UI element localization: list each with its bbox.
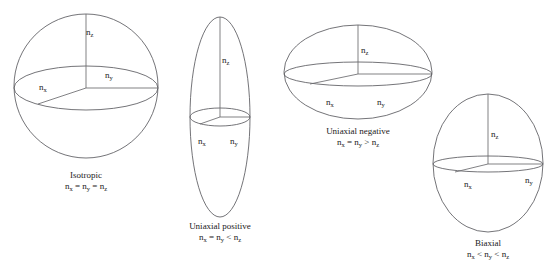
uniaxial-negative-nx-axis — [310, 74, 358, 84]
caption-uniaxial-positive-relation: nx = ny < nz — [160, 232, 280, 243]
uniaxial-negative-ny-label: ny — [377, 98, 385, 107]
uniaxial-positive-nz-label: nz — [222, 56, 229, 65]
diagram-uniaxial-negative-shape — [284, 25, 432, 119]
indicatrix-figure: nz nx ny nz nx ny nz nx ny nz nx ny Isot… — [0, 0, 557, 274]
caption-isotropic-relation: nx = ny = nz — [26, 181, 146, 192]
caption-isotropic: Isotropic nx = ny = nz — [26, 170, 146, 192]
isotropic-ny-label: ny — [105, 71, 113, 80]
biaxial-nx-axis — [455, 164, 488, 172]
uniaxial-negative-nx-label: nx — [326, 98, 334, 107]
diagram-biaxial-shape — [433, 94, 543, 232]
uniaxial-positive-nx-label: nx — [198, 137, 206, 146]
caption-uniaxial-negative-name: Uniaxial negative — [296, 126, 420, 137]
uniaxial-negative-nz-label: nz — [361, 46, 368, 55]
caption-uniaxial-positive: Uniaxial positive nx = ny < nz — [160, 221, 280, 243]
caption-biaxial-name: Biaxial — [428, 238, 548, 249]
diagram-uniaxial-positive-shape — [190, 17, 250, 217]
caption-uniaxial-negative-relation: nx = ny > nz — [296, 137, 420, 148]
caption-biaxial-relation: nx < ny < nz — [428, 249, 548, 260]
caption-isotropic-name: Isotropic — [26, 170, 146, 181]
biaxial-nx-label: nx — [464, 180, 472, 189]
uniaxial-positive-ny-label: ny — [230, 137, 238, 146]
biaxial-ny-label: ny — [525, 176, 533, 185]
biaxial-nz-label: nz — [491, 130, 498, 139]
uniaxial-positive-nx-axis — [200, 117, 220, 124]
caption-uniaxial-positive-name: Uniaxial positive — [160, 221, 280, 232]
caption-biaxial: Biaxial nx < ny < nz — [428, 238, 548, 260]
isotropic-nx-label: nx — [39, 83, 47, 92]
caption-uniaxial-negative: Uniaxial negative nx = ny > nz — [296, 126, 420, 148]
isotropic-nz-label: nz — [86, 28, 93, 37]
